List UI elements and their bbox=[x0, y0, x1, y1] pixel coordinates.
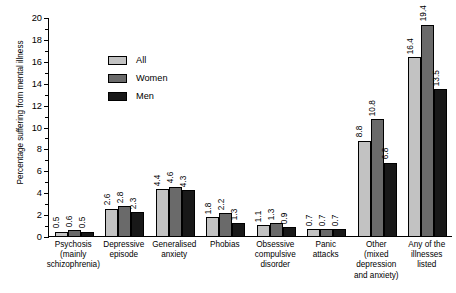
bar-group: 1.11.30.9 bbox=[257, 18, 296, 237]
bar-group: 0.70.70.7 bbox=[307, 18, 346, 237]
bar-value-label: 10.8 bbox=[369, 100, 377, 116]
legend-item-men[interactable]: Men bbox=[108, 88, 194, 104]
x-axis-category-line: schizophrenia) bbox=[39, 260, 108, 270]
y-axis-tick-label: 2 bbox=[37, 210, 42, 220]
legend-label: Women bbox=[136, 73, 168, 83]
x-axis-line bbox=[48, 236, 452, 237]
bar-value-label: 1.8 bbox=[205, 203, 213, 214]
bar-group: 8.810.86.8 bbox=[358, 18, 397, 237]
bar-men[interactable] bbox=[131, 212, 144, 237]
y-axis-tick-major bbox=[44, 237, 49, 238]
bar-value-label: 13.5 bbox=[433, 70, 441, 86]
bar-value-label: 0.7 bbox=[319, 215, 327, 226]
bar-value-label: 2.6 bbox=[104, 194, 112, 205]
x-axis-category-line: anxiety bbox=[140, 250, 209, 260]
y-axis-tick-label: 14 bbox=[32, 79, 42, 89]
bar-value-label: 2.2 bbox=[218, 199, 226, 210]
bar-value-label: 6.8 bbox=[382, 148, 390, 159]
bar-men[interactable] bbox=[182, 190, 195, 237]
bar-group: 1.82.21.3 bbox=[206, 18, 245, 237]
bar-value-label: 0.7 bbox=[332, 215, 340, 226]
x-axis-category-line: Any of the bbox=[393, 240, 456, 250]
bar-all[interactable] bbox=[156, 189, 169, 237]
bar-women[interactable] bbox=[270, 223, 283, 237]
y-axis-tick-label: 20 bbox=[32, 13, 42, 23]
bar-value-label: 2.3 bbox=[130, 197, 138, 208]
bar-women[interactable] bbox=[421, 25, 434, 237]
bar-men[interactable] bbox=[384, 163, 397, 237]
bar-women[interactable] bbox=[118, 206, 131, 237]
legend: AllWomenMen bbox=[108, 52, 194, 106]
bar-all[interactable] bbox=[206, 217, 219, 237]
x-axis-category-line: listed bbox=[393, 260, 456, 270]
y-axis-title: Percentage suffering from mental illness bbox=[16, 0, 25, 228]
bar-value-label: 0.5 bbox=[53, 217, 61, 228]
bar-all[interactable] bbox=[105, 209, 118, 237]
x-axis-labels: Psychosis(mainlyschizophrenia)Depressive… bbox=[48, 240, 452, 293]
legend-label: Men bbox=[136, 91, 154, 101]
y-axis-tick-label: 18 bbox=[32, 35, 42, 45]
x-axis-category-line: illnesses bbox=[393, 250, 456, 260]
bar-men[interactable] bbox=[232, 223, 245, 237]
bar-value-label: 19.4 bbox=[420, 6, 428, 22]
bar-value-label: 0.6 bbox=[66, 216, 74, 227]
bar-all[interactable] bbox=[358, 141, 371, 237]
bar-value-label: 0.5 bbox=[79, 217, 87, 228]
bar-value-label: 4.3 bbox=[180, 176, 188, 187]
legend-swatch-icon bbox=[108, 56, 127, 65]
bar-group: 4.44.64.3 bbox=[156, 18, 195, 237]
bar-men[interactable] bbox=[434, 89, 447, 237]
x-axis-category-label: Any of theillnesseslisted bbox=[393, 240, 456, 271]
bar-groups: 0.50.60.52.62.82.34.44.64.31.82.21.31.11… bbox=[49, 18, 452, 237]
bar-group: 2.62.82.3 bbox=[105, 18, 144, 237]
bar-group: 16.419.413.5 bbox=[408, 18, 447, 237]
plot-area: 02468101214161820 0.50.60.52.62.82.34.44… bbox=[48, 18, 452, 237]
bar-value-label: 1.3 bbox=[231, 208, 239, 219]
bar-value-label: 1.1 bbox=[255, 211, 263, 222]
bar-value-label: 8.8 bbox=[356, 126, 364, 137]
y-axis-tick-label: 4 bbox=[37, 188, 42, 198]
bar-women[interactable] bbox=[371, 119, 384, 237]
bar-value-label: 16.4 bbox=[407, 38, 415, 54]
y-axis-tick-label: 8 bbox=[37, 144, 42, 154]
legend-item-all[interactable]: All bbox=[108, 52, 194, 68]
y-axis-tick-label: 16 bbox=[32, 57, 42, 67]
legend-swatch-icon bbox=[108, 92, 127, 101]
legend-swatch-icon bbox=[108, 74, 127, 83]
y-axis-tick-label: 10 bbox=[32, 123, 42, 133]
legend-item-women[interactable]: Women bbox=[108, 70, 194, 86]
bar-value-label: 0.7 bbox=[306, 215, 314, 226]
bar-chart: Percentage suffering from mental illness… bbox=[0, 0, 456, 293]
x-axis-category-line: disorder bbox=[241, 260, 310, 270]
legend-label: All bbox=[136, 55, 146, 65]
bar-value-label: 1.3 bbox=[268, 208, 276, 219]
bar-value-label: 0.9 bbox=[281, 213, 289, 224]
y-axis-tick-label: 12 bbox=[32, 101, 42, 111]
bar-value-label: 4.4 bbox=[154, 174, 162, 185]
bar-value-label: 4.6 bbox=[167, 172, 175, 183]
bar-all[interactable] bbox=[408, 57, 421, 237]
bar-women[interactable] bbox=[169, 187, 182, 237]
x-axis-category-line: and anxiety) bbox=[342, 271, 411, 281]
bar-group: 0.50.60.5 bbox=[55, 18, 94, 237]
y-axis-tick-label: 6 bbox=[37, 166, 42, 176]
bar-value-label: 2.8 bbox=[117, 192, 125, 203]
